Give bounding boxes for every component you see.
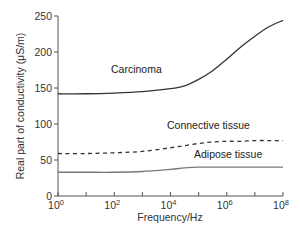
y-tick-label: 50 bbox=[40, 154, 52, 166]
y-tick-label: 200 bbox=[34, 46, 52, 58]
x-tick-label: 104 bbox=[161, 198, 177, 211]
adipose-tissue-label: Adipose tissue bbox=[194, 148, 262, 160]
y-tick-label: 150 bbox=[34, 82, 52, 94]
y-tick-label: 250 bbox=[34, 10, 52, 22]
carcinoma-curve bbox=[58, 20, 283, 93]
axes: 050100150200250100102104106108 bbox=[34, 10, 288, 211]
y-axis-label: Real part of conductivity (μS/m) bbox=[14, 33, 26, 180]
x-tick-label: 100 bbox=[48, 198, 64, 211]
connective-tissue-label: Connective tissue bbox=[167, 119, 250, 131]
x-tick-label: 108 bbox=[273, 198, 289, 211]
y-tick-label: 100 bbox=[34, 118, 52, 130]
carcinoma-label: Carcinoma bbox=[111, 63, 162, 75]
x-tick-label: 106 bbox=[217, 198, 233, 211]
x-axis-label: Frequency/Hz bbox=[137, 211, 202, 223]
x-tick-label: 102 bbox=[104, 198, 120, 211]
conductivity-chart: 050100150200250100102104106108 Carcinoma… bbox=[0, 0, 300, 238]
adipose-tissue-curve bbox=[58, 167, 283, 172]
